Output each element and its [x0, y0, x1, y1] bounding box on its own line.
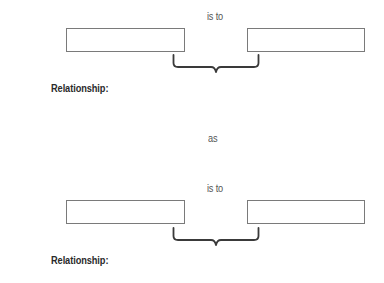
relationship-label-2: Relationship: — [51, 254, 108, 266]
curly-brace-icon — [0, 0, 384, 283]
